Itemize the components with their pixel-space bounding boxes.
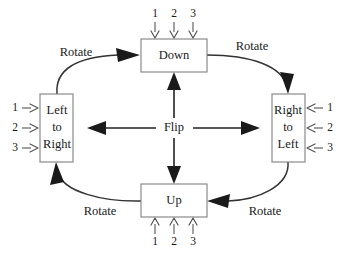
node-left-to-right-label-line-2: to [52, 120, 62, 134]
rotate-top-left-label: Rotate [60, 45, 93, 59]
node-ltr-port-chevron-2 [30, 124, 38, 132]
node-rtl-port-number-1: 1 [327, 101, 333, 113]
node-ltr-port-chevron-1 [30, 104, 38, 112]
state-transition-diagram: Rotate Rotate Rotate Rotate [0, 0, 344, 254]
node-ltr-port-number-2: 2 [12, 121, 18, 133]
node-down-port-chevron-1 [151, 31, 159, 38]
rotate-bottom-right-curve [228, 162, 288, 201]
diagram-canvas: Rotate Rotate Rotate Rotate [0, 0, 344, 254]
rotate-bottom-left-label: Rotate [84, 204, 117, 218]
node-ltr-port-chevron-3 [30, 144, 38, 152]
node-down-port-chevron-2 [170, 31, 178, 38]
flip-edge-left [87, 121, 156, 135]
node-right-to-left-label-line-1: Right [274, 103, 302, 117]
rotate-top-right-curve [207, 55, 287, 88]
node-up-label: Up [166, 193, 181, 207]
node-left-to-right-ports: 1 2 3 [12, 101, 38, 153]
node-right-to-left[interactable]: Right to Left 1 2 3 [272, 94, 333, 162]
rotate-bottom-left-curve [58, 172, 141, 201]
node-down-label: Down [159, 48, 190, 62]
node-up-port-number-1: 1 [152, 235, 158, 247]
flip-edge-right [193, 121, 260, 135]
rotate-top-left-arrowhead [116, 48, 140, 62]
node-down[interactable]: Down 1 2 3 [141, 7, 207, 72]
rotate-edge-bottom-right: Rotate [207, 162, 288, 218]
rotate-top-left-curve [57, 55, 118, 94]
node-up-port-chevron-2 [170, 218, 178, 225]
flip-left-arrowhead [87, 121, 106, 135]
rotate-top-right-label: Rotate [236, 39, 269, 53]
node-ltr-port-number-3: 3 [12, 141, 18, 153]
node-rtl-port-number-3: 3 [327, 141, 333, 153]
node-ltr-port-number-1: 1 [12, 101, 18, 113]
node-rtl-port-chevron-3 [307, 144, 315, 152]
flip-up-arrowhead [167, 72, 181, 90]
flip-center-label: Flip [164, 120, 184, 134]
node-up-port-chevron-3 [189, 218, 197, 225]
node-right-to-left-ports: 1 2 3 [307, 101, 333, 153]
node-down-ports: 1 2 3 [151, 7, 197, 38]
node-down-port-chevron-3 [189, 31, 197, 38]
rotate-bottom-left-arrowhead [50, 162, 64, 185]
node-down-port-number-1: 1 [152, 7, 158, 19]
node-rtl-port-chevron-2 [307, 124, 315, 132]
node-right-to-left-label-line-3: Left [278, 137, 299, 151]
node-up-port-number-2: 2 [171, 235, 177, 247]
rotate-edge-top-right: Rotate [207, 39, 294, 94]
node-up-port-chevron-1 [151, 218, 159, 225]
flip-edge-down [167, 138, 181, 184]
flip-down-arrowhead [167, 166, 181, 184]
node-left-to-right[interactable]: Left to Right 1 2 3 [12, 94, 73, 162]
node-up-port-number-3: 3 [190, 235, 196, 247]
rotate-top-right-arrowhead [280, 72, 294, 94]
node-rtl-port-chevron-1 [307, 104, 315, 112]
node-up-ports: 1 2 3 [151, 218, 197, 247]
rotate-bottom-right-arrowhead [207, 194, 230, 208]
node-up[interactable]: Up 1 2 3 [141, 184, 207, 247]
node-right-to-left-label-line-2: to [283, 120, 293, 134]
rotate-edge-top-left: Rotate [57, 45, 140, 94]
node-left-to-right-label-line-3: Right [43, 137, 71, 151]
node-left-to-right-label-line-1: Left [47, 103, 68, 117]
node-rtl-port-number-2: 2 [327, 121, 333, 133]
rotate-edge-bottom-left: Rotate [50, 162, 141, 218]
node-down-port-number-3: 3 [190, 7, 196, 19]
flip-edge-up [167, 72, 181, 118]
node-down-port-number-2: 2 [171, 7, 177, 19]
rotate-bottom-right-label: Rotate [249, 204, 282, 218]
flip-right-arrowhead [241, 121, 260, 135]
